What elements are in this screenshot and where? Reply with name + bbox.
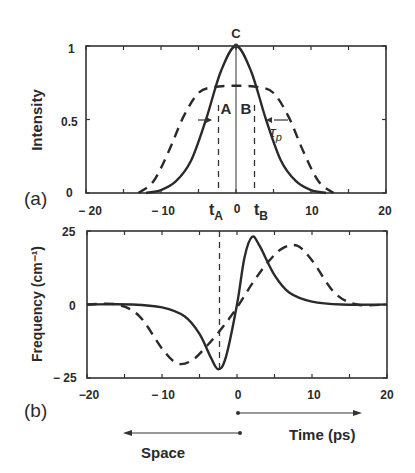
label-a: A	[221, 100, 232, 117]
a-xtick-m10: − 10	[151, 204, 175, 218]
time-arrowhead-icon	[353, 410, 362, 416]
space-arrowhead-icon	[123, 430, 132, 436]
a-ytick-1: 1	[68, 42, 75, 56]
b-xtick-10: 10	[307, 388, 321, 402]
b-ytick-25: 25	[62, 225, 76, 239]
label-tB: tB	[254, 201, 268, 223]
point-c	[234, 44, 239, 49]
b-xtick-m20: −20	[79, 388, 100, 402]
a-xtick-0: 0	[234, 202, 241, 216]
panel-b-solid-curve	[87, 236, 387, 369]
label-c: C	[231, 26, 241, 41]
label-b: B	[241, 100, 252, 117]
tau-left-arrowhead-icon	[206, 117, 212, 123]
time-label: Time (ps)	[289, 426, 355, 443]
a-xtick-10: 10	[305, 204, 319, 218]
b-xtick-0: 0	[235, 388, 242, 402]
label-tA: tA	[209, 201, 223, 223]
a-xtick-20: 20	[378, 204, 392, 218]
b-ylabel: Frequency (cm⁻¹)	[29, 246, 45, 362]
b-xtick-m10: − 10	[151, 388, 175, 402]
b-xtick-20: 20	[380, 388, 394, 402]
a-ytick-0: 0	[66, 186, 73, 200]
a-ylabel: Intensity	[28, 89, 45, 151]
panel-b-label: (b)	[24, 400, 47, 421]
figure: C A B τp 1 0.5 0 − 20 − 10 0 10 20 tA tB…	[0, 0, 415, 473]
b-ytick-m25: − 25	[53, 371, 77, 385]
a-xtick-m20: − 20	[78, 204, 102, 218]
b-ytick-0: 0	[69, 299, 76, 313]
panel-a: C A B τp 1 0.5 0 − 20 − 10 0 10 20 tA tB…	[24, 26, 392, 223]
a-ytick-05: 0.5	[61, 115, 78, 129]
panel-a-label: (a)	[24, 188, 47, 209]
space-label: Space	[141, 444, 185, 461]
panel-b: 25 0 − 25 −20 − 10 0 10 20 Frequency (cm…	[24, 225, 394, 461]
